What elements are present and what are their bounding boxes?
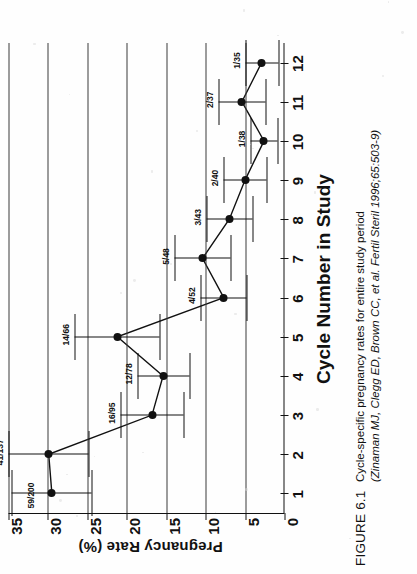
x-tick-3: 3 (288, 412, 305, 420)
x-tick-7: 7 (288, 255, 305, 263)
caption-line-1: Cycle-specific pregnancy rates for entir… (352, 0, 367, 482)
figure-container: Pregnancy Rate (%) 35302520151050 59/200… (0, 0, 417, 574)
x-tick-11: 11 (288, 95, 305, 111)
y-tickmark-25 (87, 513, 88, 520)
gridline-30 (47, 43, 48, 513)
series-polyline (8, 43, 284, 513)
x-tickmark-4 (280, 376, 288, 377)
error-cap-lower-cycle-9 (266, 157, 267, 203)
x-tickmark-5 (280, 337, 288, 338)
error-cap-upper-cycle-5 (74, 314, 75, 360)
y-tick-25: 25 (86, 518, 103, 552)
error-cap-upper-cycle-7 (174, 235, 175, 281)
y-tick-0: 0 (284, 518, 301, 552)
scan-speckle (59, 499, 62, 502)
y-axis-tick-labels: 35302520151050 (8, 518, 284, 552)
x-tickmark-7 (280, 258, 288, 259)
scan-speckle (151, 170, 154, 173)
data-point-cycle-2 (44, 450, 52, 458)
data-point-cycle-5 (113, 333, 121, 341)
x-tickmark-9 (280, 180, 288, 181)
point-label-cycle-11: 2/37 (204, 91, 214, 108)
scan-speckle (170, 263, 172, 265)
x-tick-12: 12 (288, 55, 305, 72)
point-label-cycle-3: 16/95 (106, 402, 116, 423)
error-cap-lower-cycle-4 (189, 353, 190, 399)
x-tick-10: 10 (288, 134, 305, 151)
point-label-cycle-8: 3/43 (192, 209, 202, 226)
data-point-cycle-6 (219, 294, 227, 302)
gridline-20 (126, 43, 127, 513)
data-point-cycle-10 (259, 137, 267, 145)
scan-speckle (243, 9, 246, 12)
error-cap-upper-cycle-12 (245, 40, 246, 86)
x-tickmark-11 (280, 102, 288, 103)
caption-line-2: (Zinaman MJ, Clegg ED, Brown CC, et al. … (367, 0, 382, 482)
error-cap-upper-cycle-11 (218, 79, 219, 125)
error-cap-lower-cycle-8 (252, 196, 253, 242)
x-tickmark-10 (280, 141, 288, 142)
data-point-cycle-4 (159, 372, 167, 380)
x-tickmark-1 (280, 493, 288, 494)
scan-speckle (282, 333, 284, 335)
plot-area-wrapper: Pregnancy Rate (%) 35302520151050 59/200… (0, 0, 318, 574)
error-cap-lower-cycle-3 (183, 392, 184, 438)
error-cap-upper-cycle-3 (120, 392, 121, 438)
point-label-cycle-12: 1/35 (231, 52, 241, 69)
error-cap-lower-cycle-2 (88, 431, 89, 477)
x-tickmark-2 (280, 454, 288, 455)
caption-text: Cycle-specific pregnancy rates for entir… (352, 0, 382, 482)
error-cap-lower-cycle-1 (91, 470, 92, 516)
error-cap-upper-cycle-8 (206, 196, 207, 242)
error-cap-lower-cycle-12 (278, 40, 279, 86)
x-tick-9: 9 (288, 177, 305, 185)
gridline-25 (87, 43, 88, 513)
point-label-cycle-7: 5/48 (160, 248, 170, 265)
gridline-10 (205, 43, 206, 513)
x-tickmark-8 (280, 219, 288, 220)
point-label-cycle-6: 4/52 (186, 287, 196, 304)
y-tick-35: 35 (8, 518, 25, 552)
scan-speckle (314, 191, 316, 193)
x-tick-8: 8 (288, 216, 305, 224)
x-tickmark-6 (280, 298, 288, 299)
point-label-cycle-4: 12/78 (123, 363, 133, 384)
y-tickmark-35 (8, 513, 9, 520)
y-tickmark-0 (284, 513, 285, 520)
error-cap-lower-cycle-10 (277, 118, 278, 164)
error-cap-upper-cycle-4 (137, 353, 138, 399)
point-label-cycle-10: 1/38 (236, 131, 246, 148)
point-label-cycle-2: 41/137 (0, 439, 4, 465)
x-axis-tick-labels: 123456789101112 (288, 44, 310, 514)
x-tick-6: 6 (288, 294, 305, 302)
x-tickmark-3 (280, 415, 288, 416)
y-tickmark-20 (126, 513, 127, 520)
y-tick-15: 15 (165, 518, 182, 552)
x-axis-title: Cycle Number in Study (312, 44, 334, 514)
x-tickmark-12 (280, 63, 288, 64)
scan-speckle (133, 279, 136, 282)
y-tick-20: 20 (126, 518, 143, 552)
rotated-page-content: Pregnancy Rate (%) 35302520151050 59/200… (0, 0, 417, 574)
y-tick-30: 30 (47, 518, 64, 552)
error-cap-lower-cycle-5 (159, 314, 160, 360)
point-label-cycle-5: 14/66 (60, 324, 70, 345)
error-cap-lower-cycle-11 (265, 79, 266, 125)
error-cap-upper-cycle-2 (8, 431, 9, 477)
gridline-15 (166, 43, 167, 513)
error-cap-upper-cycle-1 (11, 470, 12, 516)
plot-canvas: 59/20041/13716/9512/7814/664/525/483/432… (8, 43, 284, 514)
data-point-cycle-12 (257, 59, 265, 67)
figure-page: Pregnancy Rate (%) 35302520151050 59/200… (0, 0, 417, 574)
error-cap-lower-cycle-6 (246, 275, 247, 321)
y-tickmark-10 (205, 513, 206, 520)
y-tickmark-15 (166, 513, 167, 520)
x-tick-1: 1 (288, 490, 305, 498)
error-cap-upper-cycle-10 (250, 118, 251, 164)
point-label-cycle-1: 59/200 (25, 482, 35, 508)
gridline-5 (245, 43, 246, 513)
data-point-cycle-11 (237, 98, 245, 106)
x-tick-4: 4 (288, 373, 305, 381)
scan-speckle (316, 408, 319, 411)
data-point-cycle-9 (241, 176, 249, 184)
